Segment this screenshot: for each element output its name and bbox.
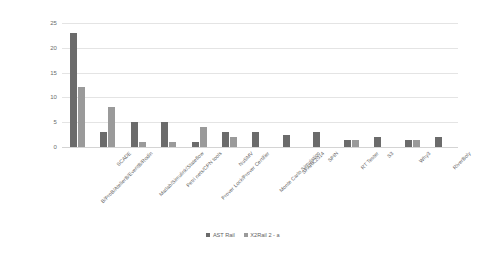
bar [78,87,85,147]
bar-group [92,23,122,147]
bar [230,137,237,147]
bar [100,132,107,147]
legend-swatch-icon [244,233,248,237]
bar-group [245,23,275,147]
bar [169,142,176,147]
x-axis-label-text: RT Tester [360,150,380,170]
bar [252,132,259,147]
bar [108,107,115,147]
bar [139,142,146,147]
bar [313,132,320,147]
x-axis-label: Why3 [418,150,432,164]
bar-chart: 0510152025 B/ProB/AtelierB/EventB/RodinS… [0,0,486,264]
bar [374,137,381,147]
bar [413,140,420,147]
bar [435,137,442,147]
bar [405,140,412,147]
bar [70,33,77,147]
bar [200,127,207,147]
bars-layer [62,23,458,147]
bar-group [397,23,427,147]
x-axis-label-text: SPIN [326,150,339,163]
y-tick-label: 15 [50,70,57,76]
bar-group [275,23,305,147]
bar-group [123,23,153,147]
bar-group [306,23,336,147]
bar [192,142,199,147]
bar-group [153,23,183,147]
legend-item[interactable]: AST Rail [206,232,234,238]
bar-group [62,23,92,147]
x-axis-label: RiverBoly [451,150,471,170]
x-axis-label-text: S3 [386,150,395,159]
y-tick-label: 25 [50,20,57,26]
x-axis-label-text: RiverBoly [451,150,471,170]
y-tick-label: 20 [50,45,57,51]
x-axis-label-text: Why3 [418,150,432,164]
bar-group [367,23,397,147]
chart-legend: AST RailX2Rail 2 - a [0,232,486,238]
y-tick-label: 5 [54,119,57,125]
bar [344,140,351,147]
y-tick-label: 0 [54,144,57,150]
x-axis-label: S3 [386,150,395,159]
x-axis-label: SPIN [326,150,339,163]
x-axis-label-text: SCADE [115,150,132,167]
legend-label: AST Rail [213,232,235,238]
bar [222,132,229,147]
bar-group [184,23,214,147]
bar-group [214,23,244,147]
legend-label: X2Rail 2 - a [250,232,279,238]
legend-swatch-icon [206,233,210,237]
plot-area: 0510152025 [62,23,458,147]
x-axis-labels: B/ProB/AtelierB/EventB/RodinSCADEMatlab/… [62,148,458,218]
x-axis-label: SCADE [115,150,132,167]
bar-group [336,23,366,147]
x-axis-label: RT Tester [360,150,380,170]
bar [283,135,290,147]
x-axis-label: Petri nets/CPN tools [184,150,222,188]
bar [161,122,168,147]
x-axis-label-text: Petri nets/CPN tools [184,150,222,188]
bar [352,140,359,147]
bar [131,122,138,147]
bar-group [428,23,458,147]
y-tick-label: 10 [50,94,57,100]
legend-item[interactable]: X2Rail 2 - a [244,232,280,238]
